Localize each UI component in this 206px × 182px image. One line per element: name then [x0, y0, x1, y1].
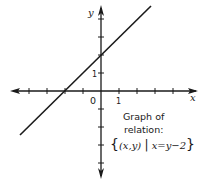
set-ordered-pair: (x,y): [119, 140, 141, 151]
y-tick-label-1: 1: [92, 70, 97, 79]
caption-set-notation: {(x,y) | x=y−2}: [110, 138, 195, 152]
relation-graph: y x 0 1 1 Graph of relation: {(x,y) | x=…: [0, 0, 206, 182]
caption-line-1: Graph of: [123, 110, 164, 123]
origin-label: 0: [90, 95, 96, 106]
set-bar: |: [144, 138, 148, 152]
coordinate-plane: y x 0 1 1: [0, 0, 206, 182]
set-open-brace: {: [110, 136, 119, 152]
x-axis-label: x: [190, 92, 196, 103]
set-rule: x=y−2: [152, 140, 186, 151]
caption-line-2: relation:: [124, 123, 163, 136]
y-axis-label: y: [87, 7, 94, 18]
x-tick-label-1: 1: [116, 97, 121, 106]
set-close-brace: }: [186, 136, 195, 152]
